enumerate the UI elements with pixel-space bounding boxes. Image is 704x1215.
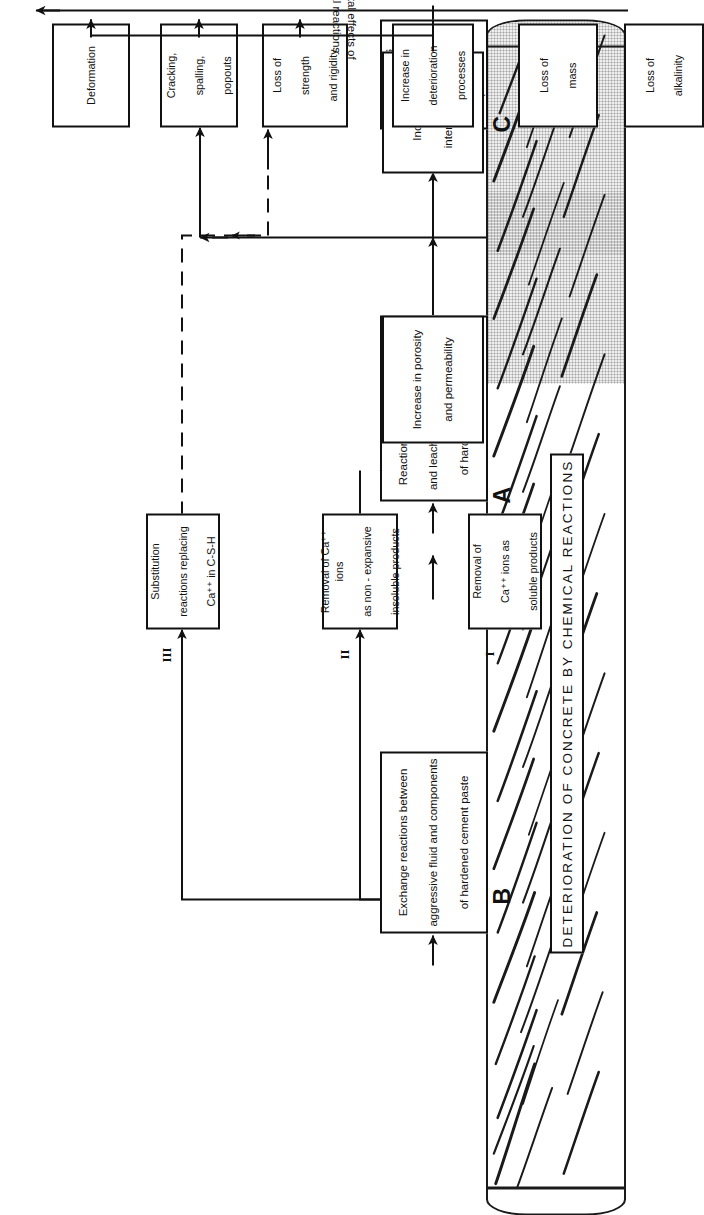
roman-numeral-i: I: [482, 651, 498, 656]
group-letter-a-text: A: [489, 486, 515, 503]
group-letter-c-text: C: [489, 115, 515, 132]
bracket-label-line2: chemical reactions: [332, 0, 344, 53]
group-letter-b-text: B: [489, 887, 515, 904]
specimen-edge-left: [488, 1187, 624, 1190]
box-b-ii-insoluble-products: Removal of Ca⁺⁺ ions as non - expansive …: [322, 513, 398, 629]
group-letter-c: C: [489, 115, 516, 132]
box-b-iii-substitution-reactions: Substitution reactions replacing Ca⁺⁺ in…: [146, 513, 220, 629]
group-letter-a: A: [489, 486, 516, 503]
effect-deformation-text: Deformation: [84, 46, 98, 105]
effect-deterioration-text: Increase in deterioration processes: [398, 45, 468, 105]
box-porosity-text: Increase in porosity and permeability: [410, 329, 456, 429]
roman-ii-text: II: [337, 649, 352, 659]
roman-numeral-ii: II: [337, 649, 353, 659]
effect-box-cracking-spalling-popouts: Cracking, spalling, popouts: [160, 23, 238, 127]
effect-box-loss-of-alkalinity: Loss of alkalinity: [624, 23, 704, 127]
roman-i-text: I: [482, 651, 497, 656]
effect-cracking-text: Cracking, spalling, popouts: [164, 52, 234, 98]
box-b-ii-text: Removal of Ca⁺⁺ ions as non - expansive …: [318, 519, 402, 623]
box-b-exchange-reactions: Exchange reactions between aggressive fl…: [380, 751, 488, 933]
box-b-text: Exchange reactions between aggressive fl…: [396, 758, 472, 926]
figure-title-text: DETERIORATION OF CONCRETE BY CHEMICAL RE…: [560, 459, 575, 947]
roman-iii-text: III: [159, 647, 174, 662]
group-letter-b: B: [489, 887, 516, 904]
effect-alkalinity-text: Loss of alkalinity: [643, 54, 685, 95]
roman-numeral-iii: III: [159, 647, 175, 662]
figure-title-banner: DETERIORATION OF CONCRETE BY CHEMICAL RE…: [550, 453, 584, 953]
bracket-label-detrimental-effects: Detrimental effects of chemical reaction…: [330, 0, 359, 65]
box-increase-porosity-permeability: Increase in porosity and permeability: [382, 315, 484, 443]
bracket-label-line1: Detrimental effects of: [346, 0, 358, 59]
box-b-i-text: Removal of Ca⁺⁺ ions as soluble products: [470, 532, 540, 611]
effect-mass-text: Loss of mass: [537, 58, 579, 93]
effect-box-increase-deterioration-processes: Increase in deterioration processes: [392, 23, 474, 127]
box-b-i-soluble-products: Removal of Ca⁺⁺ ions as soluble products: [468, 513, 542, 629]
effect-box-loss-of-mass: Loss of mass: [518, 23, 598, 127]
box-b-iii-text: Substitution reactions replacing Ca⁺⁺ in…: [148, 526, 218, 617]
effect-box-deformation: Deformation: [52, 23, 130, 127]
